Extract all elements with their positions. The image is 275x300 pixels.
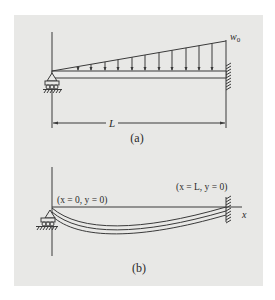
beam bbox=[52, 71, 226, 78]
pin-support-icon-b bbox=[36, 210, 58, 230]
dimension-arrow-left-icon bbox=[53, 122, 58, 125]
dimension-arrow-right-icon bbox=[220, 122, 225, 125]
x-axis-label: x bbox=[241, 209, 247, 220]
fixed-wall-icon-a bbox=[226, 63, 231, 90]
deflected-beam bbox=[52, 207, 226, 234]
left-boundary-condition-label: (x = 0, y = 0) bbox=[57, 195, 107, 206]
caption-b: (b) bbox=[132, 261, 146, 275]
fixed-wall-icon-b bbox=[226, 196, 231, 223]
panel-b bbox=[36, 167, 242, 256]
load-label: w0 bbox=[230, 31, 241, 44]
length-label: L bbox=[108, 117, 115, 129]
right-boundary-condition-label: (x = L, y = 0) bbox=[176, 182, 227, 193]
beam-diagram: w0 L (a) (x = 0, y = 0) (x = L, y = 0) x… bbox=[0, 0, 275, 300]
load-arrowheads bbox=[77, 67, 214, 71]
caption-a: (a) bbox=[130, 131, 143, 145]
load-arrows bbox=[78, 43, 212, 70]
panel-a bbox=[43, 32, 231, 128]
